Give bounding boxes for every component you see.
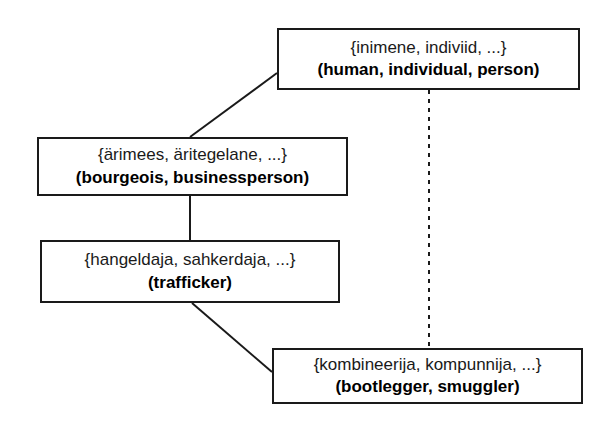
node-trafficker-estonian-label: {hangeldaja, sahkerdaja, ...}	[85, 249, 296, 271]
node-trafficker[interactable]: {hangeldaja, sahkerdaja, ...} (trafficke…	[40, 240, 340, 303]
node-human[interactable]: {inimene, indiviid, ...} (human, individ…	[277, 28, 580, 90]
node-bourgeois[interactable]: {ärimees, äritegelane, ...} (bourgeois, …	[37, 137, 348, 196]
node-bootlegger-estonian-label: {kombineerija, kompunnija, ...}	[314, 354, 542, 376]
node-human-english-label: (human, individual, person)	[318, 59, 540, 81]
edge-trafficker-bootlegger	[192, 303, 272, 372]
edge-human-bourgeois	[190, 73, 277, 137]
node-bootlegger[interactable]: {kombineerija, kompunnija, ...} (bootleg…	[272, 348, 583, 404]
node-trafficker-english-label: (trafficker)	[148, 272, 232, 294]
node-bourgeois-estonian-label: {ärimees, äritegelane, ...}	[98, 144, 287, 166]
node-bootlegger-english-label: (bootlegger, smuggler)	[335, 376, 519, 398]
node-human-estonian-label: {inimene, indiviid, ...}	[351, 37, 507, 59]
node-bourgeois-english-label: (bourgeois, businessperson)	[76, 167, 309, 189]
semantic-network-diagram: {inimene, indiviid, ...} (human, individ…	[0, 0, 608, 435]
